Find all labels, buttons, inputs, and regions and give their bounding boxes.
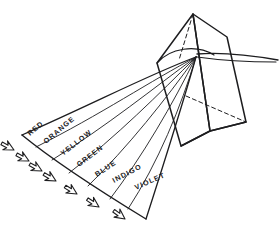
arrowhead-green [41, 170, 58, 186]
arrowhead-blue [62, 182, 79, 198]
band-label-red: RED [26, 119, 46, 138]
figure-canvas: RED ORANGE YELLOW GREEN BLUE INDIGO VIOL… [0, 0, 280, 250]
incident-white-light-ray [197, 53, 278, 62]
prism-dispersion-diagram: RED ORANGE YELLOW GREEN BLUE INDIGO VIOL… [0, 0, 280, 250]
arrowhead-red [0, 139, 16, 154]
arrowhead-indigo [85, 195, 102, 211]
triangular-prism [157, 14, 246, 146]
prism-hidden-edge-base [186, 96, 246, 122]
prism-hidden-edge-apex [179, 14, 193, 60]
arrowhead-orange [14, 150, 31, 165]
prism-base-edge [181, 122, 246, 146]
beam-outer-top-edge [22, 57, 196, 135]
arrowhead-yellow [27, 160, 44, 176]
prism-right-face [193, 14, 246, 131]
band-label-green: GREEN [75, 143, 105, 169]
band-label-violet: VIOLET [133, 170, 166, 191]
arrowhead-violet [111, 207, 128, 223]
